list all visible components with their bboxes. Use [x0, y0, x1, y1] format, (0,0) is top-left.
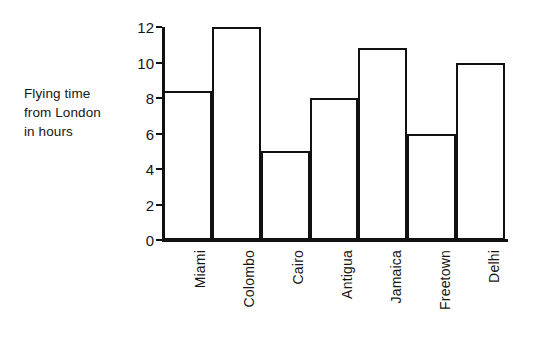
y-tick-4 — [156, 168, 162, 170]
y-tick-0 — [156, 239, 162, 241]
y-tick-label-12: 12 — [137, 20, 154, 35]
x-label-miami: Miami — [193, 250, 207, 288]
y-tick-label-10: 10 — [137, 55, 154, 70]
y-tick-8 — [156, 97, 162, 99]
bar-colombo — [212, 27, 261, 240]
x-label-colombo: Colombo — [242, 250, 256, 307]
y-tick-12 — [156, 26, 162, 28]
bar-chart: Flying time from London in hours 0246810… — [0, 0, 535, 345]
y-tick-2 — [156, 204, 162, 206]
x-label-delhi: Delhi — [487, 250, 501, 283]
y-axis-label-line-3: in hours — [24, 122, 144, 141]
y-tick-label-8: 8 — [146, 91, 154, 106]
plot-area: 024681012 MiamiColomboCairoAntiguaJamaic… — [163, 27, 505, 240]
y-tick-label-4: 4 — [146, 162, 154, 177]
y-tick-label-6: 6 — [146, 126, 154, 141]
bar-delhi — [456, 63, 505, 241]
x-label-freetown: Freetown — [438, 250, 452, 310]
y-tick-label-2: 2 — [146, 197, 154, 212]
y-tick-label-0: 0 — [146, 233, 154, 248]
y-tick-10 — [156, 62, 162, 64]
bar-antigua — [310, 98, 359, 240]
y-axis-label: Flying time from London in hours — [24, 84, 144, 141]
bar-jamaica — [358, 48, 407, 240]
y-axis-label-line-1: Flying time — [24, 84, 144, 103]
y-tick-6 — [156, 133, 162, 135]
x-label-antigua: Antigua — [340, 250, 354, 299]
bar-freetown — [407, 134, 456, 241]
y-axis-label-line-2: from London — [24, 103, 144, 122]
bar-cairo — [261, 151, 310, 240]
x-label-jamaica: Jamaica — [389, 250, 403, 304]
x-label-cairo: Cairo — [291, 250, 305, 284]
bar-miami — [163, 91, 212, 240]
